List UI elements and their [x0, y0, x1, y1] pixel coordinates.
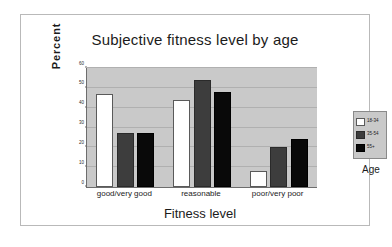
- y-tick-label: 60: [79, 61, 84, 66]
- bar: [270, 147, 287, 187]
- y-tick-label: 10: [79, 160, 84, 165]
- x-axis-category-label: reasonable: [163, 189, 240, 198]
- bar: [96, 94, 113, 187]
- chart-title: Subjective fitness level by age: [21, 31, 369, 48]
- legend-item: 35-54: [356, 128, 384, 141]
- bars-layer: [87, 68, 317, 187]
- legend-item: 55+: [356, 141, 384, 154]
- bar: [214, 92, 231, 187]
- bar: [291, 139, 308, 187]
- chart-figure-frame: Subjective fitness level by age Percent …: [20, 14, 370, 226]
- legend-item: 18-34: [356, 115, 384, 128]
- x-axis-category-label: good/very good: [86, 189, 163, 198]
- bar: [137, 133, 154, 187]
- y-tick-label: 50: [79, 81, 84, 86]
- legend-label: 55+: [367, 145, 375, 150]
- bar: [194, 80, 211, 187]
- bar: [117, 133, 134, 187]
- legend-swatch-icon: [356, 131, 365, 139]
- y-tick-label: 30: [79, 121, 84, 126]
- y-tick-label: 0: [81, 180, 84, 185]
- legend-swatch-icon: [356, 118, 365, 126]
- bar: [173, 100, 190, 187]
- x-axis-title: Fitness level: [85, 206, 315, 221]
- y-tick-label: 20: [79, 141, 84, 146]
- legend-title: Age: [351, 164, 391, 175]
- legend-label: 35-54: [367, 132, 379, 137]
- x-axis-category-label: poor/very poor: [239, 189, 316, 198]
- chart-legend: 18-3435-5455+: [353, 111, 387, 159]
- plot-area: 0102030405060: [86, 68, 317, 188]
- y-axis-title: Percent: [50, 1, 62, 91]
- y-tick-label: 40: [79, 101, 84, 106]
- legend-label: 18-34: [367, 119, 379, 124]
- legend-swatch-icon: [356, 144, 365, 152]
- bar: [250, 171, 267, 187]
